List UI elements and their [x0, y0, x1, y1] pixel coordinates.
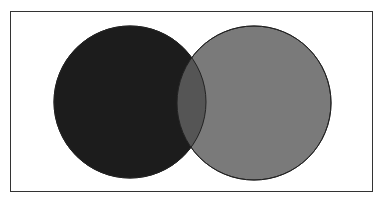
venn-diagram: [0, 0, 386, 203]
